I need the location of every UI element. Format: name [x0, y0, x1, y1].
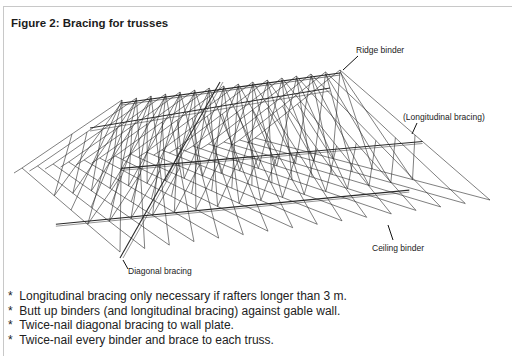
longitudinal-bracing-label: (Longitudinal bracing)	[403, 112, 485, 122]
ridge-binder-label: Ridge binder	[356, 45, 404, 55]
ceiling-binder-label: Ceiling binder	[372, 243, 424, 253]
diagonal-bracing-label: Diagonal bracing	[128, 266, 192, 276]
note-item: * Twice-nail every binder and brace to e…	[8, 333, 347, 348]
note-bullet: *	[8, 304, 16, 319]
note-text: Longitudinal bracing only necessary if r…	[19, 289, 347, 303]
truss-bracing-diagram	[0, 0, 512, 300]
label-leader-lines	[123, 56, 417, 269]
note-item: * Butt up binders (and longitudinal brac…	[8, 304, 347, 319]
note-item: * Longitudinal bracing only necessary if…	[8, 289, 347, 304]
notes-list: * Longitudinal bracing only necessary if…	[8, 289, 347, 347]
binders-and-bracing	[56, 73, 423, 258]
note-text: Twice-nail every binder and brace to eac…	[19, 333, 274, 347]
note-bullet: *	[8, 289, 16, 304]
ceiling-binder-leader	[388, 225, 393, 240]
note-item: * Twice-nail diagonal bracing to wall pl…	[8, 318, 347, 333]
note-text: Butt up binders (and longitudinal bracin…	[19, 304, 340, 318]
note-bullet: *	[8, 318, 16, 333]
roof-trusses	[14, 70, 490, 252]
note-text: Twice-nail diagonal bracing to wall plat…	[19, 318, 234, 332]
note-bullet: *	[8, 333, 16, 348]
longitudinal-bracing-leader	[412, 123, 417, 134]
ridge-binder-leader	[343, 56, 358, 70]
